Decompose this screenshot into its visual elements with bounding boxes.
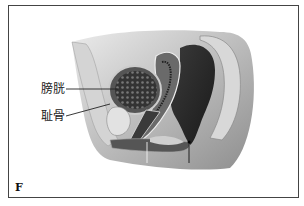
panel-letter: F [15, 181, 23, 194]
pubic-bone-shape [107, 107, 131, 136]
label-bladder: 膀胱 [41, 83, 65, 95]
pelvis-illustration [0, 0, 304, 206]
label-pubic-bone: 耻骨 [41, 110, 65, 122]
anal-marker [188, 141, 191, 144]
bladder-interior [115, 71, 157, 109]
